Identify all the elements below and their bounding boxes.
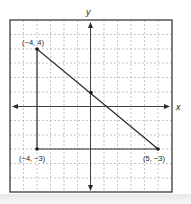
vertex-label: (−4, −3) [19,154,46,163]
y-axis-label: y [85,7,91,17]
vertex-point [35,147,39,151]
x-axis-label: x [175,102,181,112]
coordinate-plane-figure: y x (−4, 4) (−4, −3) (5, −3) [0,0,191,204]
vertex-point [156,147,160,151]
coordinate-plane-svg: y x (−4, 4) (−4, −3) (5, −3) [0,0,191,204]
x-axis-left-arrow-icon [12,104,18,109]
y-axis-up-arrow-icon [88,22,93,28]
vertex-point [35,47,39,51]
axes [12,22,170,191]
vertex-label: (5, −3) [143,154,165,163]
triangle [37,49,158,149]
vertex-label: (−4, 4) [22,38,44,47]
x-axis-right-arrow-icon [164,104,170,109]
bottom-shadow [0,194,191,204]
y-axis-down-arrow-icon [88,185,93,191]
midpoint-point [89,91,93,95]
